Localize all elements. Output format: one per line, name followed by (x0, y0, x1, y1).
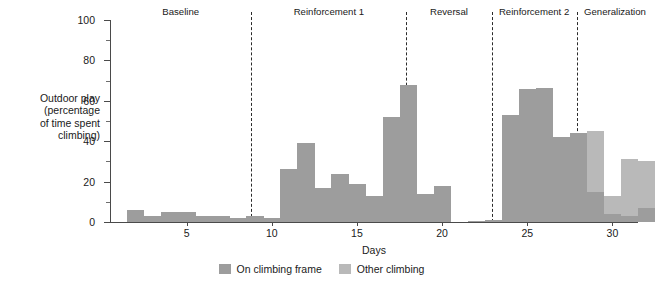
y-tick-label: 0 (89, 217, 95, 228)
bar-segment-on-climbing-frame (383, 117, 400, 222)
x-tick-label: 5 (184, 228, 190, 239)
y-tick-label: 100 (77, 15, 95, 26)
bar-segment-on-climbing-frame (144, 216, 161, 222)
bar-day-13 (314, 188, 331, 222)
x-tick (272, 222, 273, 226)
bar-segment-on-climbing-frame (621, 216, 638, 222)
bar-segment-on-climbing-frame (195, 216, 212, 222)
bar-segment-on-climbing-frame (331, 174, 348, 222)
bar-segment-on-climbing-frame (536, 88, 553, 222)
bar-segment-other-climbing (621, 159, 638, 216)
bar-segment-on-climbing-frame (127, 210, 144, 222)
bar-day-22 (468, 221, 485, 222)
phase-label-baseline: Baseline (162, 6, 199, 17)
bar-segment-on-climbing-frame (229, 218, 246, 222)
x-tick-label: 10 (266, 228, 278, 239)
bar-day-19 (417, 194, 434, 222)
bar-segment-other-climbing (587, 131, 604, 192)
bar-day-24 (502, 115, 519, 222)
bar-segment-on-climbing-frame (485, 220, 502, 222)
phase-label-reinforcement-2: Reinforcement 2 (499, 6, 569, 17)
bar-day-28 (570, 133, 587, 222)
y-tick-label: 20 (83, 177, 95, 188)
y-tick-major: 0 (104, 222, 110, 223)
bar-segment-on-climbing-frame (604, 214, 621, 222)
phase-label-reversal: Reversal (430, 6, 468, 17)
bar-day-23 (485, 220, 502, 222)
x-tick (187, 222, 188, 226)
bar-segment-on-climbing-frame (587, 192, 604, 222)
bar-day-17 (383, 117, 400, 222)
legend-swatch-icon (339, 264, 351, 274)
bar-day-9 (246, 216, 263, 222)
bar-segment-on-climbing-frame (246, 216, 263, 222)
x-tick (612, 222, 613, 226)
bar-day-32 (638, 161, 655, 222)
bar-day-29 (587, 131, 604, 222)
bar-segment-on-climbing-frame (400, 85, 417, 222)
bar-segment-on-climbing-frame (212, 216, 229, 222)
bar-segment-on-climbing-frame (280, 169, 297, 222)
bar-day-18 (400, 85, 417, 222)
x-tick (357, 222, 358, 226)
x-tick-label: 30 (607, 228, 619, 239)
bar-segment-on-climbing-frame (263, 218, 280, 222)
bar-segment-on-climbing-frame (365, 196, 382, 222)
bar-segment-on-climbing-frame (570, 133, 587, 222)
bar-day-26 (536, 88, 553, 222)
bar-day-10 (263, 218, 280, 222)
bar-day-6 (195, 216, 212, 222)
bar-segment-on-climbing-frame (178, 212, 195, 222)
bar-day-20 (434, 186, 451, 222)
phase-label-reinforcement-1: Reinforcement 1 (294, 6, 364, 17)
bar-day-16 (365, 196, 382, 222)
bar-day-2 (127, 210, 144, 222)
bar-segment-on-climbing-frame (638, 208, 655, 222)
bar-segment-on-climbing-frame (553, 137, 570, 222)
chart-legend: On climbing frame Other climbing (0, 263, 643, 275)
bar-series-group (110, 20, 638, 222)
bar-segment-on-climbing-frame (502, 115, 519, 222)
bar-segment-other-climbing (638, 161, 655, 207)
phase-label-generalization: Generalization (584, 6, 646, 17)
bar-day-12 (297, 143, 314, 222)
legend-item-on-climbing-frame: On climbing frame (219, 263, 322, 275)
bar-day-14 (331, 174, 348, 222)
bar-segment-on-climbing-frame (417, 194, 434, 222)
legend-swatch-icon (219, 264, 231, 274)
legend-label: On climbing frame (237, 263, 322, 275)
y-tick-label: 80 (83, 55, 95, 66)
bar-day-5 (178, 212, 195, 222)
legend-item-other-climbing: Other climbing (339, 263, 425, 275)
y-tick-label: 60 (83, 96, 95, 107)
bar-segment-on-climbing-frame (297, 143, 314, 222)
x-axis-title: Days (110, 244, 638, 256)
bar-day-11 (280, 169, 297, 222)
bar-segment-on-climbing-frame (434, 186, 451, 222)
bar-segment-on-climbing-frame (314, 188, 331, 222)
bar-segment-on-climbing-frame (348, 184, 365, 222)
bar-day-25 (519, 89, 536, 222)
plot-area: 020406080100 51015202530 BaselineReinfor… (110, 20, 638, 222)
bar-segment-on-climbing-frame (161, 212, 178, 222)
bar-day-30 (604, 196, 621, 222)
bar-day-3 (144, 216, 161, 222)
x-tick-label: 25 (521, 228, 533, 239)
bar-day-4 (161, 212, 178, 222)
bar-segment-on-climbing-frame (468, 221, 485, 222)
x-axis-line (110, 222, 638, 223)
bar-day-27 (553, 137, 570, 222)
bar-day-7 (212, 216, 229, 222)
bar-day-31 (621, 159, 638, 222)
x-tick (527, 222, 528, 226)
bar-day-15 (348, 184, 365, 222)
bar-segment-other-climbing (604, 196, 621, 214)
x-tick (442, 222, 443, 226)
x-tick-label: 20 (436, 228, 448, 239)
bar-day-8 (229, 218, 246, 222)
x-tick-label: 15 (351, 228, 363, 239)
y-tick-label: 40 (83, 136, 95, 147)
legend-label: Other climbing (357, 263, 425, 275)
bar-segment-on-climbing-frame (519, 89, 536, 222)
